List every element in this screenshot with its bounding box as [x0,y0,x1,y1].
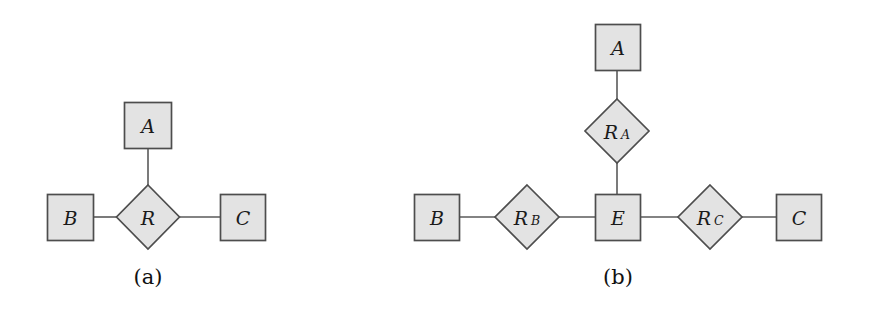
entity-label-c: C [236,207,251,229]
entity-label-b-c: C [792,207,807,229]
relationship-label-rb: R [513,207,528,229]
relationship-label-rc: R [696,207,711,229]
entity-label-b-a: A [609,37,625,59]
relationship-sub-rb: B [530,213,540,228]
caption-b: (b) [603,265,633,289]
caption-a: (a) [134,265,163,289]
entity-label-e: E [610,207,625,229]
entity-label-b: B [63,207,78,229]
entity-label-b-b: B [429,207,444,229]
entity-label-a: A [139,115,155,137]
relationship-sub-rc: C [714,213,724,228]
diagram-b-group: A R A E B R B R C C (b) [415,25,822,290]
er-diagram-figure: A B C R (a) A R [0,0,874,325]
relationship-label-r: R [140,207,155,229]
figure-canvas: A B C R (a) A R [0,0,874,325]
diagram-a-group: A B C R (a) [48,103,266,290]
relationship-sub-ra: A [620,127,630,142]
relationship-label-ra: R [603,121,618,143]
